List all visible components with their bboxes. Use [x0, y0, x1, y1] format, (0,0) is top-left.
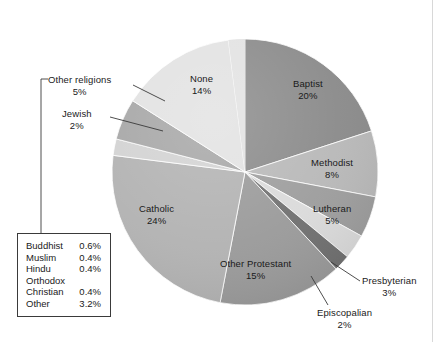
slice-label-lutheran-percent: 5% [313, 215, 351, 227]
slice-label-other-protestant: Other Protestant 15% [220, 258, 291, 281]
slice-label-methodist-name: Methodist [311, 157, 353, 169]
slice-label-other-religions-name: Other religions [48, 74, 111, 86]
breakdown-row-name: Muslim [18, 252, 74, 264]
slice-label-lutheran: Lutheran 5% [313, 203, 351, 226]
breakdown-row: Christian0.4% [18, 286, 110, 298]
breakdown-table: Buddhist0.6%Muslim0.4%Hindu0.4%OrthodoxC… [18, 240, 110, 310]
slice-label-baptist: Baptist 20% [293, 78, 323, 101]
slice-label-presbyterian-name: Presbyterian [362, 275, 417, 287]
breakdown-row-value [74, 275, 110, 287]
breakdown-row: Orthodox [18, 275, 110, 287]
slice-label-methodist-percent: 8% [311, 169, 353, 181]
slice-label-other-protestant-percent: 15% [220, 270, 291, 282]
slice-label-baptist-name: Baptist [293, 78, 323, 90]
leader-bracket-other-religions-to-legend [41, 79, 48, 233]
breakdown-row-name: Hindu [18, 263, 74, 275]
leader-line-presbyterian [331, 262, 360, 281]
slice-label-jewish: Jewish 2% [62, 108, 92, 131]
slice-label-catholic: Catholic 24% [139, 203, 174, 226]
breakdown-row: Buddhist0.6% [18, 240, 110, 252]
breakdown-row: Muslim0.4% [18, 252, 110, 264]
breakdown-row-value: 3.2% [74, 298, 110, 310]
breakdown-row-name: Christian [18, 286, 74, 298]
breakdown-row-value: 0.4% [74, 263, 110, 275]
breakdown-row-name: Buddhist [18, 240, 74, 252]
slice-label-catholic-percent: 24% [139, 215, 174, 227]
breakdown-row-value: 0.6% [74, 240, 110, 252]
slice-label-episcopalian-percent: 2% [317, 319, 372, 331]
slice-label-baptist-percent: 20% [293, 90, 323, 102]
slice-label-presbyterian: Presbyterian 3% [362, 275, 417, 298]
breakdown-row-value: 0.4% [74, 252, 110, 264]
breakdown-row-name: Other [18, 298, 74, 310]
breakdown-row: Hindu0.4% [18, 263, 110, 275]
slice-label-episcopalian: Episcopalian 2% [317, 307, 372, 330]
other-religions-breakdown-box: Buddhist0.6%Muslim0.4%Hindu0.4%OrthodoxC… [17, 233, 111, 317]
slice-label-jewish-name: Jewish [62, 108, 92, 120]
breakdown-row: Other3.2% [18, 298, 110, 310]
slice-label-none: None 14% [190, 73, 213, 96]
slice-label-none-percent: 14% [190, 85, 213, 97]
slice-label-other-religions: Other religions 5% [48, 74, 111, 97]
breakdown-row-name: Orthodox [18, 275, 74, 287]
slice-label-other-religions-percent: 5% [48, 86, 111, 98]
slice-label-other-protestant-name: Other Protestant [220, 258, 291, 270]
slice-label-catholic-name: Catholic [139, 203, 174, 215]
slice-label-jewish-percent: 2% [62, 120, 92, 132]
breakdown-table-body: Buddhist0.6%Muslim0.4%Hindu0.4%OrthodoxC… [18, 240, 110, 310]
slice-label-none-name: None [190, 73, 213, 85]
breakdown-row-value: 0.4% [74, 286, 110, 298]
slice-label-presbyterian-percent: 3% [362, 287, 417, 299]
pie-chart-figure: Baptist 20% Methodist 8% Lutheran 5% Non… [0, 0, 443, 342]
slice-label-lutheran-name: Lutheran [313, 203, 351, 215]
slice-label-methodist: Methodist 8% [311, 157, 353, 180]
slice-label-episcopalian-name: Episcopalian [317, 307, 372, 319]
